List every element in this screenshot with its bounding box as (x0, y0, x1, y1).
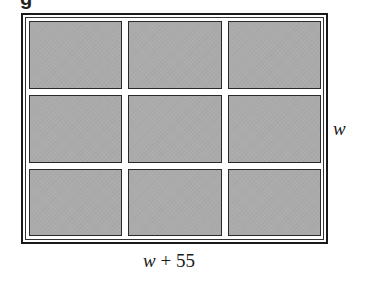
grid-cell-r1c2 (128, 21, 222, 89)
grid-cell-r3c2 (128, 169, 222, 236)
cropped-caption-fragment: g (20, 0, 32, 8)
grid-cell-r3c3 (228, 169, 321, 236)
grid-cell-r1c1 (29, 21, 122, 89)
width-label-variable: w (143, 250, 156, 271)
grid-cell-r3c1 (29, 169, 122, 236)
grid-cell-r2c2 (128, 95, 222, 163)
grid-cell-r2c1 (29, 95, 122, 163)
height-label: w (333, 118, 346, 140)
grid-cell-r1c3 (228, 21, 321, 89)
width-label-expression: + 55 (156, 250, 195, 271)
panel-grid (29, 21, 321, 236)
grid-cell-r2c3 (228, 95, 321, 163)
width-label: w + 55 (143, 250, 195, 272)
